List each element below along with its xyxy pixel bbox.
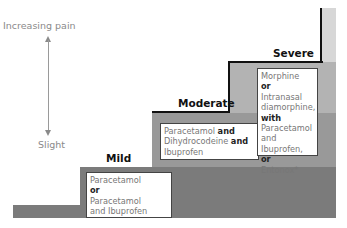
step-title-mild: Mild [106,152,131,164]
band-top [322,8,336,62]
axis-label-increasing-pain: Increasing pain [3,20,76,31]
stair-line-severe-v [320,8,322,63]
severe-line-5: Paracetamol [261,123,314,133]
severe-line-6: and Ibuprofen, [261,133,314,154]
severe-line-8: Entonox* [261,165,314,175]
mild-line-2: or [90,185,168,195]
severe-line-1: Morphine [261,71,314,81]
arrow-down-icon [45,130,51,136]
pain-axis-line [48,40,49,132]
stair-line-moderate-h [152,111,230,113]
axis-label-slight: Slight [38,139,65,150]
severe-line-3: diamorphine, [261,102,314,112]
moderate-line-2: Dihydrocodeine and [164,136,255,146]
severe-line-7: or [261,154,314,164]
mild-line-1: Paracetamol [90,175,168,185]
severe-line-2: or Intranasal [261,81,314,102]
mild-line-3: Paracetamol [90,196,168,206]
step-title-severe: Severe [273,47,314,59]
treatment-box-severe: Morphine or Intranasal diamorphine, with… [257,68,318,156]
moderate-line-3: Ibuprofen [164,147,255,157]
band-base [13,205,81,218]
severe-line-4: with [261,113,314,123]
stair-line-severe-h [228,61,323,63]
moderate-line-1: Paracetamol and [164,126,255,136]
treatment-box-mild: Paracetamol or Paracetamol and Ibuprofen [86,172,172,218]
treatment-box-moderate: Paracetamol and Dihydrocodeine and Ibupr… [160,123,259,160]
step-title-moderate: Moderate [178,97,235,109]
mild-line-4: and Ibuprofen [90,206,168,216]
